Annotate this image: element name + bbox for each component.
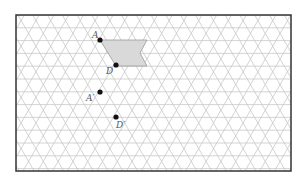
- point-label-a2: A′: [85, 93, 95, 103]
- point-label-a: A: [91, 30, 99, 40]
- point-a2: [97, 89, 102, 94]
- triangular-grid-diagram: ADA′D′: [0, 0, 304, 178]
- point-label-d: D: [105, 66, 113, 76]
- point-label-d2: D′: [115, 120, 125, 130]
- point-d: [113, 62, 118, 67]
- point-d2: [113, 114, 118, 119]
- triangular-grid: [0, 0, 304, 178]
